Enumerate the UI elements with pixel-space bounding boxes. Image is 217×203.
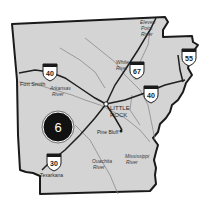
pine-bluff-dot xyxy=(120,130,123,133)
interstate-shield-30: 30 xyxy=(47,154,61,171)
shield-number: 40 xyxy=(147,92,155,99)
interstate-shield-40-east: 40 xyxy=(144,86,158,103)
shield-number: 30 xyxy=(50,160,58,167)
river-label-mississippi-2: River xyxy=(126,159,138,165)
city-label-little-rock-1: LITTLE xyxy=(110,105,130,111)
marker-number: 6 xyxy=(54,120,61,135)
interstate-shield-67: 67 xyxy=(130,62,144,79)
city-label-texarkana: Texarkana xyxy=(40,172,63,178)
interstate-shield-40-west: 40 xyxy=(43,64,57,81)
river-label-white-2: River xyxy=(116,65,128,71)
shield-number: 55 xyxy=(185,55,193,62)
shield-number: 67 xyxy=(133,68,141,75)
river-label-eleven-point-3: River xyxy=(141,31,153,37)
city-label-pine-bluff: Pine Bluff xyxy=(97,129,119,135)
location-marker-6[interactable]: 6 xyxy=(42,111,74,143)
city-label-fort-smith: Fort Smith xyxy=(20,81,45,87)
interstate-shield-55: 55 xyxy=(182,49,196,66)
river-label-arkansas-2: River xyxy=(52,91,64,97)
arkansas-map: Fort Smith LITTLE ROCK Pine Bluff Texark… xyxy=(0,0,217,203)
shield-number: 40 xyxy=(46,70,54,77)
little-rock-dot xyxy=(104,102,108,106)
river-label-ouachita-2: River xyxy=(93,164,105,170)
city-label-little-rock-2: ROCK xyxy=(110,112,127,118)
